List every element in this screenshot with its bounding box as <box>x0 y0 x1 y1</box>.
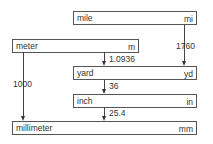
unit-abbr: in <box>186 96 193 108</box>
unit-box-inch: inch in <box>73 94 197 108</box>
factor-inch-millimeter: 25.4 <box>109 108 126 118</box>
factor-yard-inch: 36 <box>109 81 118 91</box>
unit-name: mile <box>77 12 93 24</box>
factor-meter-millimeter: 1000 <box>13 79 32 89</box>
arrow-down-icon <box>102 61 106 66</box>
unit-box-meter: meter m <box>12 39 139 53</box>
arrow-down-icon <box>102 89 106 94</box>
factor-meter-yard: 1.0936 <box>109 54 135 64</box>
arrow-down-icon <box>102 116 106 121</box>
unit-abbr: m <box>128 41 135 53</box>
unit-name: meter <box>16 40 38 52</box>
connector-meter-yard <box>104 52 105 61</box>
unit-box-yard: yard yd <box>73 66 197 80</box>
connector-inch-millimeter <box>104 107 105 116</box>
unit-abbr: mm <box>179 123 193 135</box>
unit-name: inch <box>77 95 93 107</box>
arrow-down-icon <box>182 61 186 66</box>
factor-mile-yard: 1760 <box>176 41 195 51</box>
connector-yard-inch <box>104 80 105 89</box>
arrow-down-icon <box>21 116 25 121</box>
unit-box-mile: mile mi <box>73 11 197 25</box>
unit-box-millimeter: millimeter mm <box>12 121 197 135</box>
unit-abbr: mi <box>184 13 193 25</box>
unit-abbr: yd <box>184 68 193 80</box>
unit-name: yard <box>77 67 94 79</box>
unit-name: millimeter <box>16 122 52 134</box>
